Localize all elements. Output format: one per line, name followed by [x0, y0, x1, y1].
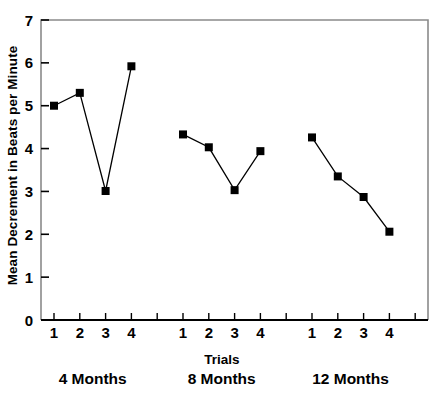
x-axis-tick-label: 3: [230, 324, 238, 341]
group-label-12-months: 12 Months: [312, 370, 389, 388]
group-label-8-months: 8 Months: [188, 370, 256, 388]
x-axis-tick-label: 4: [127, 324, 136, 341]
data-point-marker: [360, 193, 368, 201]
data-point-marker: [308, 133, 316, 141]
y-axis-tick-label: 0: [25, 312, 33, 329]
y-axis-tick-label: 7: [25, 12, 33, 29]
data-point-marker: [102, 187, 110, 195]
y-axis-tick-label: 2: [25, 226, 33, 243]
data-point-marker: [385, 228, 393, 236]
data-point-marker: [231, 186, 239, 194]
data-point-marker: [127, 62, 135, 70]
y-axis-tick-label: 4: [25, 140, 34, 157]
data-point-marker: [76, 89, 84, 97]
x-axis-tick-label: 1: [179, 324, 187, 341]
data-point-marker: [179, 130, 187, 138]
x-axis-tick-label: 1: [308, 324, 316, 341]
series-line-8-months: [183, 134, 260, 190]
y-axis-tick-label: 3: [25, 183, 33, 200]
x-axis-tick-label: 4: [385, 324, 394, 341]
x-axis-tick-label: 3: [101, 324, 109, 341]
x-axis-tick-label: 3: [359, 324, 367, 341]
y-axis-tick-label: 6: [25, 54, 33, 71]
group-label-4-months: 4 Months: [59, 370, 127, 388]
x-axis-tick-label: 2: [334, 324, 342, 341]
x-axis-title: Trials: [204, 352, 239, 367]
x-axis-tick-label: 1: [50, 324, 58, 341]
chart-figure: Mean Decrement in Beats per Minute 01234…: [0, 0, 448, 400]
y-axis-tick-label: 5: [25, 97, 33, 114]
data-point-marker: [334, 172, 342, 180]
x-axis-tick-label: 4: [256, 324, 265, 341]
plot-frame: [41, 20, 428, 320]
x-axis-tick-label: 2: [76, 324, 84, 341]
series-line-12-months: [312, 137, 389, 231]
data-point-marker: [50, 102, 58, 110]
y-axis-tick-label: 1: [25, 269, 33, 286]
series-line-4-months: [54, 66, 131, 191]
plot-area: 01234567123412341234: [0, 0, 448, 400]
x-axis-tick-label: 2: [205, 324, 213, 341]
data-point-marker: [256, 147, 264, 155]
data-point-marker: [205, 143, 213, 151]
